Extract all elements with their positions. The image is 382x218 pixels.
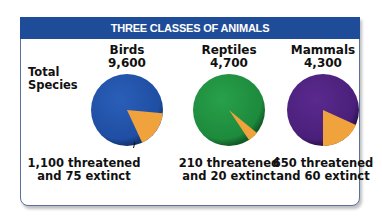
- birds-column: Birds 9,600: [71, 44, 183, 70]
- note-line2: and 75 extinct: [9, 170, 159, 183]
- chart-frame: THREE CLASSES OF ANIMALS Total Species B…: [20, 17, 360, 206]
- mammals-column: Mammals 4,300: [267, 44, 379, 70]
- species-count: 9,600: [71, 57, 183, 70]
- chart-title: THREE CLASSES OF ANIMALS: [20, 17, 360, 39]
- mammals-pie: [285, 72, 361, 148]
- reptiles-pie: [191, 72, 267, 148]
- mammals-note: 650 threatened and 60 extinct: [248, 157, 382, 183]
- total-label-line2: Species: [28, 79, 78, 92]
- note-line2: and 60 extinct: [248, 170, 382, 183]
- species-count: 4,300: [267, 57, 379, 70]
- birds-pie: [89, 72, 165, 148]
- birds-note: 1,100 threatened and 75 extinct: [9, 157, 159, 183]
